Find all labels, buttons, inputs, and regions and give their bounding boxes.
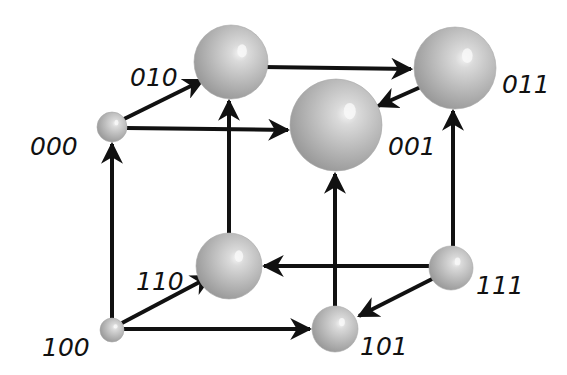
sphere-icon [429,246,473,290]
edge-arrow-000-to-001 [127,128,288,130]
node-label-010: 010 [130,63,178,92]
sphere-highlight [455,257,461,265]
sphere-icon [97,112,127,142]
state-node-111 [429,246,473,290]
sphere-icon [312,306,358,352]
sphere-highlight [462,48,473,63]
state-node-010 [194,25,268,99]
sphere-highlight [344,103,356,120]
sphere-highlight [114,324,118,328]
sphere-highlight [237,44,247,57]
edge-arrow-010-to-011 [263,67,411,69]
node-label-100: 100 [42,333,90,362]
state-node-001 [290,79,382,171]
state-node-011 [414,27,496,109]
node-label-011: 011 [502,70,550,99]
state-node-100 [100,318,124,342]
node-label-000: 000 [30,132,78,161]
state-node-110 [196,233,262,299]
node-label-001: 001 [388,132,436,161]
state-node-000 [97,112,127,142]
state-node-101 [312,306,358,352]
state-cube-diagram: 000010011001110111100101 [0,0,567,375]
edge-arrow-111-to-101 [359,276,438,316]
labels-layer: 000010011001110111100101 [30,63,550,362]
sphere-highlight [339,318,345,326]
sphere-icon [414,27,496,109]
sphere-icon [100,318,124,342]
sphere-icon [194,25,268,99]
node-label-111: 111 [476,271,524,300]
sphere-icon [290,79,382,171]
sphere-highlight [235,250,244,262]
node-label-101: 101 [360,332,408,361]
sphere-highlight [115,120,119,125]
node-label-110: 110 [136,267,184,296]
sphere-icon [196,233,262,299]
